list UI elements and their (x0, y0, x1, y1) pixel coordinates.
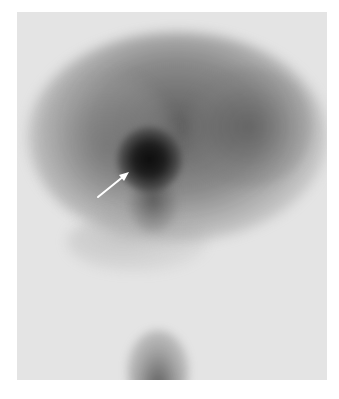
right-organ-uptake (187, 67, 312, 187)
focal-tail (129, 177, 177, 232)
lower-faint-uptake (67, 212, 207, 272)
left-organ-uptake (37, 72, 177, 222)
bottom-uptake (127, 330, 189, 380)
figure-page (0, 0, 339, 399)
scintigraphy-image (17, 12, 327, 380)
diffuse-organ-uptake (27, 32, 327, 242)
focal-hot-spot (117, 127, 182, 192)
